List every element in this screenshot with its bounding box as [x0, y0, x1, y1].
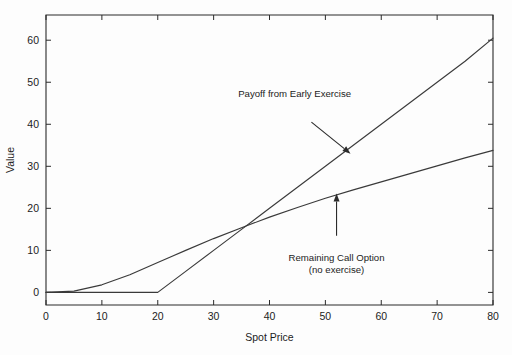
y-tick-label: 20 — [27, 202, 39, 214]
y-tick-label: 0 — [33, 286, 39, 298]
x-tick-label: 30 — [208, 310, 220, 322]
x-tick-label: 10 — [96, 310, 108, 322]
series-payoff-early-exercise — [46, 38, 493, 292]
payoff-vs-spot-price-chart: 010203040506070800102030405060Spot Price… — [0, 0, 512, 355]
x-tick-label: 70 — [431, 310, 443, 322]
chart-page: 010203040506070800102030405060Spot Price… — [0, 0, 512, 355]
annotation-text: (no exercise) — [309, 264, 364, 275]
annotation-text: Remaining Call Option — [289, 252, 385, 263]
y-tick-label: 40 — [27, 118, 39, 130]
y-axis-title: Value — [4, 147, 16, 173]
x-tick-label: 50 — [320, 310, 332, 322]
x-axis-title: Spot Price — [245, 331, 294, 343]
x-tick-label: 20 — [152, 310, 164, 322]
y-tick-label: 10 — [27, 244, 39, 256]
y-tick-label: 30 — [27, 160, 39, 172]
x-tick-label: 0 — [43, 310, 49, 322]
annotation-arrow-line — [311, 122, 344, 149]
series-remaining-call-option — [46, 150, 493, 292]
y-tick-label: 60 — [27, 34, 39, 46]
plot-frame — [46, 15, 493, 305]
x-tick-label: 40 — [264, 310, 276, 322]
annotation-text: Payoff from Early Exercise — [238, 88, 351, 99]
x-tick-label: 60 — [375, 310, 387, 322]
x-tick-label: 80 — [487, 310, 499, 322]
y-tick-label: 50 — [27, 76, 39, 88]
